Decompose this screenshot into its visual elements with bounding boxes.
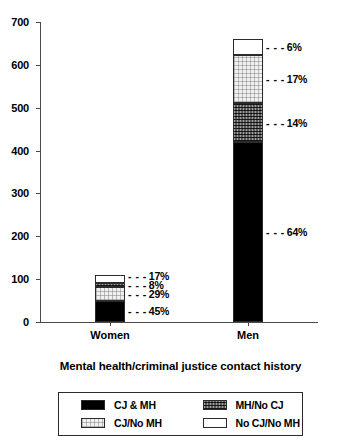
chart-legend: CJ & MH MH/No CJ CJ/No MH No CJ/No MH (58, 392, 303, 436)
legend-item-no-cj-no-mh[interactable]: No CJ/No MH (181, 417, 303, 429)
y-tick-600: 600 (36, 65, 40, 66)
y-tick-label-700: 700 (11, 16, 29, 28)
bar-men-segment-cj-and-mh[interactable] (233, 142, 263, 322)
annotation-men-14: - - -14% (266, 117, 307, 129)
x-axis-title: Mental health/criminal justice contact h… (0, 360, 361, 372)
legend-swatch-no-cj-no-mh-icon (203, 418, 227, 428)
annotation-women-17-label: 17% (149, 270, 169, 282)
legend-label-mh-no-cj: MH/No CJ (236, 399, 284, 411)
x-tick-label-women: Women (90, 329, 130, 341)
x-tick-men (248, 322, 249, 326)
y-tick-0: 0 (36, 322, 40, 323)
leader-line-women-17: - - - (128, 270, 147, 282)
x-axis-spine (40, 322, 318, 323)
y-tick-100: 100 (36, 279, 40, 280)
annotation-women-45: - - -45% (128, 305, 169, 317)
x-tick-women (110, 322, 111, 326)
annotation-men-64-label: 64% (287, 226, 307, 238)
annotation-men-17: - - -17% (266, 73, 307, 85)
legend-label-no-cj-no-mh: No CJ/No MH (236, 417, 300, 429)
y-tick-400: 400 (36, 151, 40, 152)
bar-men-segment-no-cj-no-mh[interactable] (233, 39, 263, 56)
legend-item-cj-and-mh[interactable]: CJ & MH (59, 399, 181, 411)
bar-women-segment-mh-no-cj[interactable] (95, 283, 125, 287)
annotation-men-6-label: 6% (287, 41, 302, 53)
y-tick-label-100: 100 (11, 273, 29, 285)
legend-label-cj-and-mh: CJ & MH (114, 399, 156, 411)
bar-men[interactable] (233, 22, 263, 322)
y-tick-200: 200 (36, 236, 40, 237)
legend-item-mh-no-cj[interactable]: MH/No CJ (181, 399, 303, 411)
y-tick-label-400: 400 (11, 145, 29, 157)
legend-swatch-cj-and-mh-icon (81, 400, 105, 410)
y-tick-label-0: 0 (23, 316, 29, 328)
legend-label-cj-no-mh: CJ/No MH (114, 417, 162, 429)
legend-item-cj-no-mh[interactable]: CJ/No MH (59, 417, 181, 429)
y-tick-500: 500 (36, 108, 40, 109)
bar-women-segment-cj-and-mh[interactable] (95, 301, 125, 322)
bar-women[interactable] (95, 22, 125, 322)
bar-women-segment-no-cj-no-mh[interactable] (95, 275, 125, 283)
y-tick-label-600: 600 (11, 59, 29, 71)
legend-swatch-cj-no-mh-icon (81, 418, 105, 428)
leader-line-women-45: - - - (128, 305, 147, 317)
y-axis-spine (40, 22, 41, 322)
chart-figure: 0 100 200 300 400 500 600 700 Women Men (0, 0, 361, 448)
bar-men-segment-cj-no-mh[interactable] (233, 55, 263, 103)
y-tick-label-300: 300 (11, 187, 29, 199)
plot-area: 0 100 200 300 400 500 600 700 Women Men (40, 22, 318, 322)
annotation-men-14-label: 14% (287, 117, 307, 129)
bar-men-segment-mh-no-cj[interactable] (233, 103, 263, 142)
x-tick-label-men: Men (237, 329, 259, 341)
annotation-men-6: - - -6% (266, 41, 302, 53)
annotation-women-17: - - -17% (128, 270, 169, 282)
y-tick-label-200: 200 (11, 230, 29, 242)
leader-line-men-17: - - - (266, 73, 285, 85)
leader-line-men-14: - - - (266, 117, 285, 129)
legend-swatch-mh-no-cj-icon (203, 400, 227, 410)
y-tick-label-500: 500 (11, 102, 29, 114)
bar-women-segment-cj-no-mh[interactable] (95, 287, 125, 301)
leader-line-men-6: - - - (266, 41, 285, 53)
annotation-men-64: - - -64% (266, 226, 307, 238)
annotation-women-45-label: 45% (149, 305, 169, 317)
annotation-men-17-label: 17% (287, 73, 307, 85)
leader-line-men-64: - - - (266, 226, 285, 238)
y-tick-700: 700 (36, 22, 40, 23)
y-tick-300: 300 (36, 193, 40, 194)
